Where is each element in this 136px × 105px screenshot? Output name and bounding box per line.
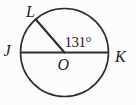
radius-OL-line — [36, 19, 65, 52]
point-label-J: J — [4, 42, 12, 59]
geometry-figure: L J K O 131° — [0, 0, 136, 105]
point-label-O: O — [58, 56, 70, 73]
circle-diagram-canvas: L J K O 131° — [0, 0, 136, 105]
angle-measure-label: 131° — [65, 34, 92, 50]
point-label-K: K — [114, 48, 127, 65]
point-label-L: L — [25, 3, 35, 20]
